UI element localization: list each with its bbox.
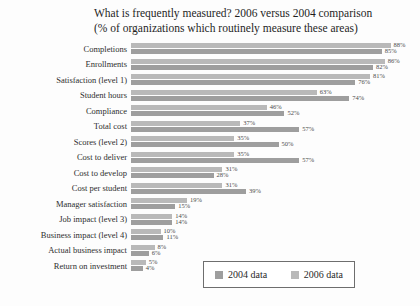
bar-2006	[131, 214, 172, 219]
bar-2004	[131, 49, 382, 54]
value-label-2006: 46%	[270, 104, 282, 111]
value-label-2006: 81%	[373, 73, 385, 80]
bar-2004	[131, 127, 299, 132]
bar-2004	[131, 204, 175, 209]
category-label: Student hours	[0, 90, 131, 100]
value-label-2004: 39%	[249, 188, 261, 195]
bar-line-2006: 46%	[131, 105, 420, 110]
category-label: Return on investment	[0, 261, 131, 271]
category-label: Enrollments	[0, 59, 131, 69]
chart-row: Total cost 37% 57%	[0, 118, 420, 134]
chart-row: Scores (level 2) 35% 50%	[0, 134, 420, 150]
category-label: Total cost	[0, 121, 131, 131]
bar-pair: 86% 82%	[131, 59, 420, 70]
category-label: Cost per student	[0, 183, 131, 193]
chart-legend: 2004 data 2006 data	[203, 261, 355, 288]
bar-line-2004: 82%	[131, 65, 420, 70]
bar-pair: 10% 11%	[131, 229, 420, 240]
legend-swatch-2006	[291, 271, 299, 279]
bar-pair: 88% 85%	[131, 43, 420, 54]
value-label-2004: 15%	[178, 203, 190, 210]
category-label: Scores (level 2)	[0, 137, 131, 147]
bar-line-2006: 88%	[131, 43, 420, 48]
bar-pair: 81% 76%	[131, 74, 420, 85]
bar-2004	[131, 80, 355, 85]
bar-2004	[131, 158, 299, 163]
chart-row: Job impact (level 3) 14% 14%	[0, 211, 420, 227]
chart-row: Cost to deliver 35% 57%	[0, 149, 420, 165]
bar-2004	[131, 65, 373, 70]
chart-rows: Completions 88% 85% Enrollments 86% 82%	[0, 41, 420, 274]
legend-label-2006: 2006 data	[304, 269, 343, 280]
value-label-2004: 57%	[302, 157, 314, 164]
bar-line-2004: 28%	[131, 173, 420, 178]
value-label-2004: 4%	[146, 265, 155, 272]
chart-row: Student hours 63% 74%	[0, 87, 420, 103]
bar-line-2004: 57%	[131, 127, 420, 132]
legend-swatch-2004	[215, 271, 223, 279]
chart-row: Satisfaction (level 1) 81% 76%	[0, 72, 420, 88]
chart-row: Actual business impact 8% 6%	[0, 242, 420, 258]
bar-line-2006: 35%	[131, 136, 420, 141]
category-label: Compliance	[0, 106, 131, 116]
value-label-2006: 86%	[388, 58, 400, 65]
bar-2006	[131, 121, 240, 126]
bar-2004	[131, 266, 143, 271]
bar-2006	[131, 59, 385, 64]
value-label-2004: 82%	[376, 64, 388, 71]
value-label-2006: 19%	[190, 197, 202, 204]
value-label-2004: 6%	[152, 250, 161, 257]
bar-2006	[131, 74, 370, 79]
bar-2004	[131, 111, 284, 116]
value-label-2006: 35%	[237, 135, 249, 142]
chart-row: Completions 88% 85%	[0, 41, 420, 57]
bar-2004	[131, 235, 163, 240]
chart-row: Cost per student 31% 39%	[0, 180, 420, 196]
bar-pair: 35% 50%	[131, 136, 420, 147]
value-label-2006: 31%	[225, 182, 237, 189]
bar-line-2006: 37%	[131, 121, 420, 126]
chart-row: Business impact (level 4) 10% 11%	[0, 227, 420, 243]
bar-2006	[131, 260, 146, 265]
category-label: Completions	[0, 44, 131, 54]
bar-2004	[131, 173, 214, 178]
chart-row: Enrollments 86% 82%	[0, 56, 420, 72]
bar-line-2004: 76%	[131, 80, 420, 85]
value-label-2004: 14%	[175, 219, 187, 226]
chart-title-block: What is frequently measured? 2006 versus…	[0, 0, 420, 36]
bar-line-2004: 39%	[131, 189, 420, 194]
legend-item-2004: 2004 data	[215, 269, 267, 280]
category-label: Satisfaction (level 1)	[0, 75, 131, 85]
chart-row: Compliance 46% 52%	[0, 103, 420, 119]
bar-line-2006: 31%	[131, 183, 420, 188]
bar-line-2006: 31%	[131, 167, 420, 172]
bar-2004	[131, 96, 349, 101]
bar-pair: 46% 52%	[131, 105, 420, 116]
bar-line-2004: 50%	[131, 142, 420, 147]
category-label: Cost to deliver	[0, 152, 131, 162]
bar-2006	[131, 90, 317, 95]
value-label-2004: 52%	[287, 110, 299, 117]
bar-pair: 19% 15%	[131, 198, 420, 209]
bar-2006	[131, 183, 222, 188]
bar-line-2006: 35%	[131, 152, 420, 157]
bar-2006	[131, 136, 234, 141]
bar-line-2004: 57%	[131, 158, 420, 163]
bar-2006	[131, 43, 391, 48]
bar-line-2004: 85%	[131, 49, 420, 54]
value-label-2004: 74%	[352, 95, 364, 102]
bar-2006	[131, 152, 234, 157]
bar-2006	[131, 229, 161, 234]
bar-line-2004: 11%	[131, 235, 420, 240]
chart-row: Manager satisfaction 19% 15%	[0, 196, 420, 212]
value-label-2006: 37%	[243, 120, 255, 127]
bar-line-2004: 14%	[131, 220, 420, 225]
value-label-2006: 35%	[237, 151, 249, 158]
value-label-2004: 28%	[217, 172, 229, 179]
chart-figure: What is frequently measured? 2006 versus…	[0, 0, 420, 306]
chart-title: What is frequently measured? 2006 versus…	[94, 6, 420, 21]
bar-line-2006: 19%	[131, 198, 420, 203]
value-label-2006: 63%	[320, 89, 332, 96]
bar-pair: 8% 6%	[131, 245, 420, 256]
bar-line-2006: 8%	[131, 245, 420, 250]
